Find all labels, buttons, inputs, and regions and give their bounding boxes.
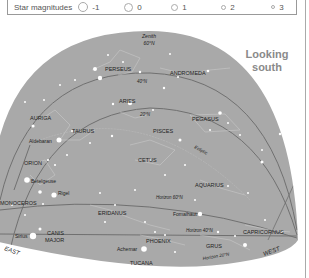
zenith-label: Zenith [141,33,156,39]
star-chart: Looking south Zenith 60°N PERSEUS ANDROM… [0,0,309,278]
label-horizon-60: Horizon 60°N [156,195,184,200]
label-perseus: PERSEUS [105,66,132,72]
label-pegasus: PEGASUS [192,116,219,122]
label-horizon-40: Horizon 40°N [186,228,214,233]
label-eridanus: ERIDANUS [98,210,127,216]
label-achernar: Achernar [117,246,138,252]
label-pisces: PISCES [153,128,174,134]
label-phoenix: PHOENIX [146,238,171,244]
label-tucana: TUCANA [130,260,153,266]
label-rigel: Rigel [58,190,69,196]
label-aries: ARIES [119,98,136,104]
label-grus: GRUS [206,243,222,249]
label-cetus: CETUS [138,157,157,163]
label-betelgeuse: Betelgeuse [31,178,56,184]
label-lat-20: 20°N [139,112,151,117]
direction-east: EAST [4,245,22,256]
label-orion: ORION [24,160,42,166]
label-aquarius: AQUARIUS [195,182,224,188]
label-canis-major-2: MAJOR [45,237,64,243]
label-andromeda: ANDROMEDA [170,70,206,76]
label-taurus: TAURUS [72,128,95,134]
label-capricornus: CAPRICORNUS [243,229,284,235]
label-monoceros: MONOCEROS [0,200,37,206]
label-auriga: AURIGA [30,115,51,121]
heading-south: south [252,61,282,73]
label-canis-major-1: CANIS [47,230,64,236]
heading-looking: Looking [246,48,289,60]
zenith-latitude: 60°N [143,40,155,46]
label-fomalhaut: Fomalhaut [173,211,197,217]
label-sirius: Sirius [15,233,28,239]
label-aldebaran: Aldebaran [29,138,52,144]
label-lat-40: 40°N [137,79,148,84]
